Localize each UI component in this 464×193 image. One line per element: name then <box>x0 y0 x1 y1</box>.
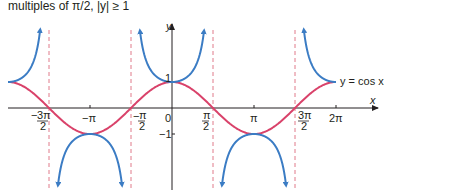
x-tick-neg-pi: −π <box>82 112 96 124</box>
svg-text:2: 2 <box>301 120 307 132</box>
x-tick-zero: 0 <box>165 112 171 124</box>
y-tick-one: 1 <box>165 72 171 84</box>
x-tick-neg-pi-2: − π 2 <box>133 109 147 132</box>
svg-text:2: 2 <box>40 120 46 132</box>
x-tick-3pi-2: 3π 2 <box>298 109 312 132</box>
sec-cos-graph: y x 1 −1 0 −π π 2π − 3π 2 − π 2 π 2 3π 2… <box>0 0 464 193</box>
x-tick-neg-3pi-2: − 3π 2 <box>31 109 51 132</box>
x-tick-2pi: 2π <box>329 112 343 124</box>
cos-label: y = cos x <box>340 75 384 87</box>
x-tick-pi: π <box>250 112 258 124</box>
svg-text:2: 2 <box>203 120 209 132</box>
y-tick-neg-one: −1 <box>159 128 172 140</box>
x-axis-label: x <box>369 94 376 106</box>
x-tick-pi-2: π 2 <box>202 109 211 132</box>
svg-text:2: 2 <box>139 120 145 132</box>
